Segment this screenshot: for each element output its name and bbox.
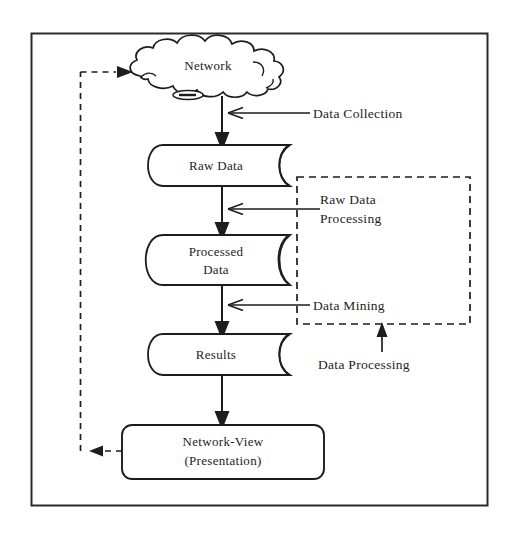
annotation-label-raw-data-processing-line1: Raw Data (320, 192, 376, 207)
annotation-label-raw-data-processing-line2: Processing (320, 211, 382, 226)
node-label-processed-data-line1: Processed (189, 244, 244, 260)
diagram-canvas: Network Raw Data Processed Data Results … (0, 0, 513, 538)
annotation-label-data-collection: Data Collection (313, 106, 403, 121)
node-label-network-view-line2: (Presentation) (184, 453, 261, 469)
annotation-label-data-processing: Data Processing (318, 357, 410, 372)
node-label-raw-data: Raw Data (189, 158, 243, 173)
node-label-results: Results (196, 347, 236, 362)
annotation-label-data-mining: Data Mining (313, 298, 385, 313)
node-label-network: Network (184, 58, 232, 73)
node-label-network-view-line1: Network-View (183, 434, 264, 450)
node-label-processed-data-line2: Data (203, 262, 229, 278)
